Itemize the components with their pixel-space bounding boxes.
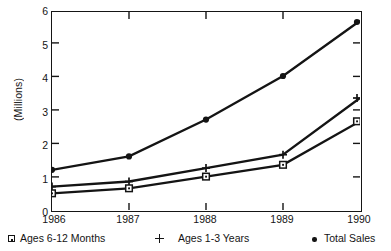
legend-label-ages-1-3-years: Ages 1-3 Years (178, 233, 249, 244)
legend-item-ages-1-3-years[interactable]: Ages 1-3 Years (155, 233, 249, 244)
y-tick-label-5: 5 (34, 40, 48, 51)
point-total-sales-1990 (354, 19, 360, 25)
point-total-sales-1988 (203, 117, 209, 123)
x-tick-label-1987: 1987 (116, 214, 139, 225)
series-total-sales (52, 19, 360, 173)
chart-legend: Ages 6-12 Months Ages 1-3 Years Total Sa… (0, 233, 391, 249)
filled-dot-icon (310, 234, 319, 243)
series-ages-6-12-months (52, 118, 360, 197)
y-tick-label-4: 4 (34, 73, 48, 84)
plot-area (51, 11, 362, 212)
x-tick-label-1989: 1989 (270, 214, 293, 225)
legend-item-total-sales[interactable]: Total Sales (310, 233, 375, 244)
y-tick-label-2: 2 (34, 140, 48, 151)
x-axis-tick-labels: 1986 1987 1988 1989 1990 (0, 214, 391, 228)
y-tick-label-3: 3 (34, 107, 48, 118)
y-axis-title: (Millions) (12, 78, 26, 121)
legend-label-total-sales: Total Sales (324, 233, 375, 244)
x-tick-label-1988: 1988 (193, 214, 216, 225)
x-tick-label-1986: 1986 (42, 214, 65, 225)
open-square-dot-icon (8, 235, 15, 242)
clipped-title-strip: • · · · · · (0, 0, 391, 9)
markers-ages-6-12-months (52, 118, 360, 197)
legend-label-ages-6-12-months: Ages 6-12 Months (20, 233, 105, 244)
y-tick-label-1: 1 (34, 174, 48, 185)
clipped-title-text: • · · · · · (150, 0, 183, 3)
point-total-sales-1987 (126, 153, 132, 159)
chart-page: • · · · · · (Millions) 0 1 2 3 4 5 6 (0, 0, 391, 251)
point-total-sales-1986 (52, 167, 55, 173)
point-total-sales-1989 (280, 73, 286, 79)
plus-icon (155, 234, 164, 243)
x-tick-label-1990: 1990 (347, 214, 370, 225)
y-tick-label-6: 6 (34, 6, 48, 17)
plot-svg (52, 12, 360, 210)
legend-item-ages-6-12-months[interactable]: Ages 6-12 Months (8, 233, 105, 244)
